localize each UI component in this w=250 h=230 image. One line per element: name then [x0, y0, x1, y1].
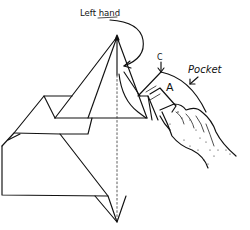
pocket-arrow: [190, 77, 198, 84]
right-hand-drawing: [150, 88, 236, 168]
label-pocket: Pocket: [188, 64, 223, 75]
label-a: A: [166, 81, 174, 94]
label-left-hand: Left hand: [80, 8, 120, 18]
corner-c-arrow: [158, 62, 164, 72]
label-c: C: [157, 53, 163, 62]
diagram-canvas: Left hand C A Pocket: [0, 0, 250, 230]
model-pyramid: [55, 35, 147, 220]
model-base: [2, 96, 147, 222]
origami-diagram: Left hand C A Pocket: [0, 0, 250, 230]
